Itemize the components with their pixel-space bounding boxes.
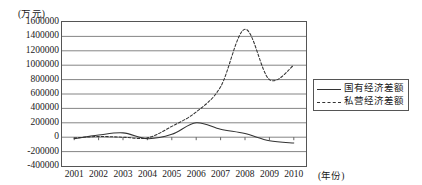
x-axis-tick-label: 2004: [138, 168, 157, 180]
y-axis-tick-label: 200000: [1, 118, 59, 128]
y-axis-tick-label: 1600000: [1, 17, 59, 27]
y-axis-tick-label: -400000: [1, 161, 59, 171]
plot-canvas: [62, 22, 306, 166]
x-axis-tick-labels: 2001200220032004200520062007200820092010: [61, 168, 307, 182]
legend-label: 私营经济差额: [344, 96, 404, 107]
series-line-1: [74, 123, 294, 143]
chart-figure: (万元) 16000001400000120000010000008000006…: [0, 0, 422, 185]
y-axis-tick-labels: 1600000140000012000001000000800000600000…: [0, 0, 59, 185]
legend-item: 国有经济差额: [317, 82, 404, 95]
chart-legend: 国有经济差额私营经济差额: [313, 79, 409, 111]
x-axis-tick-label: 2005: [162, 168, 181, 180]
series-line-2: [74, 29, 294, 138]
x-axis-unit-label: (年份): [318, 168, 344, 182]
x-axis-tick-label: 2007: [211, 168, 230, 180]
legend-line-icon: [317, 84, 341, 94]
x-axis-tick-label: 2003: [114, 168, 133, 180]
plot-area: [61, 21, 307, 167]
y-axis-tick-label: 0: [1, 132, 59, 142]
y-axis-tick-label: 400000: [1, 103, 59, 113]
y-axis-tick-label: 1200000: [1, 46, 59, 56]
y-axis-tick-label: 1400000: [1, 31, 59, 41]
x-axis-tick-label: 2008: [236, 168, 255, 180]
legend-label: 国有经济差额: [344, 83, 404, 94]
x-axis-tick-label: 2009: [260, 168, 279, 180]
x-axis-tick-label: 2006: [187, 168, 206, 180]
x-axis-tick-label: 2002: [89, 168, 108, 180]
y-axis-tick-label: 800000: [1, 75, 59, 85]
y-axis-tick-label: 600000: [1, 89, 59, 99]
legend-item: 私营经济差额: [317, 95, 404, 108]
x-axis-tick-label: 2010: [284, 168, 303, 180]
legend-line-icon: [317, 97, 341, 107]
y-axis-tick-label: -200000: [1, 147, 59, 157]
x-axis-tick-label: 2001: [65, 168, 84, 180]
y-axis-tick-label: 1000000: [1, 60, 59, 70]
